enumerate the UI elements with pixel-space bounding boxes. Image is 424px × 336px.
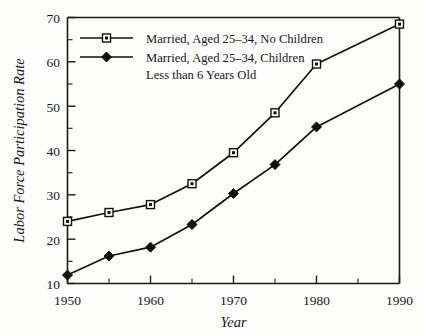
y-tick-label: 50 (47, 100, 61, 115)
line-chart-canvas: 70 60 50 40 30 20 10 1950 1960 1970 1980… (0, 0, 424, 336)
x-axis-major-ticks (68, 276, 400, 284)
y-tick-label: 30 (47, 188, 61, 203)
series-children-under-6 (63, 79, 405, 280)
legend-entry-children-under-6[interactable]: Married, Aged 25–34, Children Less than … (80, 51, 305, 82)
x-tick-label: 1960 (137, 293, 164, 308)
series-children-under-6-markers (63, 79, 405, 280)
y-axis-tick-labels: 70 60 50 40 30 20 10 (47, 11, 61, 292)
filled-diamond-icon (102, 52, 112, 62)
legend-label-no-children: Married, Aged 25–34, No Children (146, 32, 324, 46)
y-axis-title: Labor Force Participation Rate (11, 58, 27, 244)
chart-legend: Married, Aged 25–34, No Children Married… (80, 32, 324, 82)
x-tick-label: 1970 (220, 293, 247, 308)
series-children-under-6-line (68, 84, 400, 275)
x-tick-label: 1980 (303, 293, 330, 308)
y-tick-label: 20 (47, 233, 61, 248)
x-tick-label: 1990 (386, 293, 413, 308)
legend-label-children-under-6-line1: Married, Aged 25–34, Children (146, 51, 305, 65)
legend-label-children-under-6-line2: Less than 6 Years Old (146, 68, 257, 82)
x-tick-label: 1950 (54, 293, 81, 308)
legend-entry-no-children[interactable]: Married, Aged 25–34, No Children (80, 32, 324, 46)
x-axis-title: Year (220, 314, 246, 330)
y-tick-label: 40 (47, 144, 61, 159)
x-axis-tick-labels: 1950 1960 1970 1980 1990 (54, 293, 413, 308)
chart-figure: 70 60 50 40 30 20 10 1950 1960 1970 1980… (0, 0, 424, 336)
y-axis-major-ticks (68, 18, 76, 284)
y-tick-label: 70 (47, 11, 61, 26)
open-square-icon-center (105, 37, 108, 40)
y-tick-label: 60 (47, 55, 61, 70)
y-tick-label: 10 (47, 277, 61, 292)
